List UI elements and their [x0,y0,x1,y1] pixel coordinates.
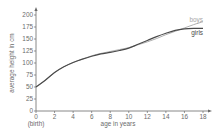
series-lines [36,22,203,87]
y-tick-label: 0 [29,107,33,114]
y-tick-label: 75 [26,71,34,78]
y-tick-label: 125 [22,47,33,54]
x-tick-label: 10 [125,113,133,120]
series-labels: boysgirls [190,16,204,37]
y-tick-label: 200 [22,11,33,18]
boys-label: boys [190,16,204,24]
y-axis-label: average height in cm [8,33,16,92]
x-tick-label: 2 [53,113,57,120]
girls-label: girls [191,29,203,37]
x-axis-label: age in years [101,120,136,128]
y-tick-label: 50 [26,83,34,90]
x-tick-label: 4 [71,113,75,120]
y-tick-label: 100 [22,59,33,66]
x-tick-label: 8 [108,113,112,120]
girls-line [36,28,203,87]
boys-line [36,22,203,87]
y-axis-arrow-icon [34,7,37,11]
y-tick-label: 150 [22,35,33,42]
axes [34,7,212,113]
x-tick-label: 14 [162,113,170,120]
x-axis-arrow-icon [208,109,212,112]
x-tick-label: 0 [34,113,38,120]
y-tick-label: 175 [22,23,33,30]
x-tick-label: 6 [90,113,94,120]
x-tick-label: 16 [181,113,189,120]
height-by-age-chart: 0255075100125150175200 024681012141618 b… [0,0,218,137]
birth-label: (birth) [28,120,45,128]
x-tick-label: 18 [199,113,207,120]
y-axis-ticks: 0255075100125150175200 [22,11,36,114]
x-tick-label: 12 [144,113,152,120]
x-axis-ticks: 024681012141618 [34,111,207,120]
y-tick-label: 25 [26,95,34,102]
